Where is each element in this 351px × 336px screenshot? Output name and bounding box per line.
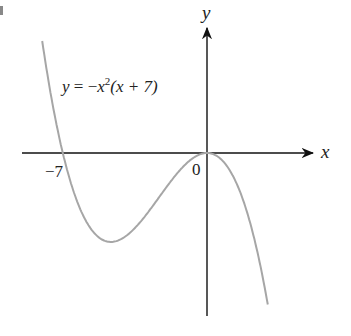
- x-axis-label: x: [321, 141, 329, 163]
- origin-label: 0: [192, 160, 201, 180]
- equation-label: y = −x2(x + 7): [62, 75, 158, 97]
- x-intercept-label: −7: [45, 162, 63, 182]
- y-axis-label: y: [202, 2, 210, 24]
- chart-canvas: y = −x2(x + 7) x y −7 0: [0, 0, 351, 336]
